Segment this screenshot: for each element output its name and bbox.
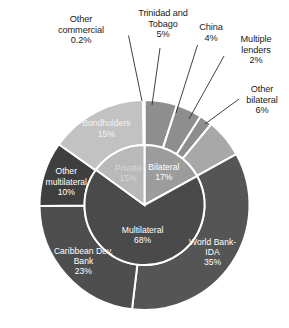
callout-trinidad-and-tobago: Trinidad and Tobago 5% [130,8,196,40]
leader-line-trinidad [152,48,160,105]
leader-line-other-bilateral [205,99,239,124]
callout-other-commercial: Other commercial 0.2% [48,14,114,46]
leader-line-china [176,45,198,113]
callout-multiple-lenders: Multiple lenders 2% [230,34,282,66]
leader-line-multiple-lenders [189,56,224,119]
pie-chart-figure: Bilateral17%Multilateral68%Private15%Wor… [0,0,289,328]
leader-line-other-commercial [129,36,143,102]
callout-china: China 4% [190,22,232,43]
callout-other-bilateral: Other bilateral 6% [238,84,286,116]
outer-slice-other-commercial[interactable] [143,100,144,145]
